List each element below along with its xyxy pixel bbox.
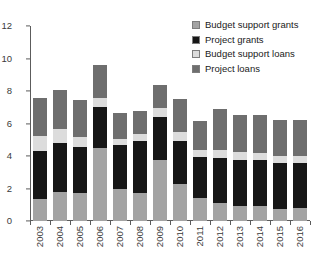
legend: Budget support grantsProject grantsBudge… (192, 19, 298, 75)
legend-item-label: Project grants (205, 35, 264, 45)
bar-segment[interactable] (113, 139, 127, 146)
bar-segment[interactable] (153, 85, 167, 108)
y-axis-tick-label: 2 (0, 184, 12, 194)
x-axis-tick-label: 2006 (95, 226, 105, 247)
bar-segment[interactable] (213, 150, 227, 159)
bar-segment[interactable] (33, 98, 47, 136)
x-axis-tick-mark (30, 221, 31, 225)
bar-segment[interactable] (233, 115, 247, 152)
legend-swatch-icon (192, 36, 200, 44)
x-axis-tick-label: 2011 (195, 226, 205, 246)
bar-segment[interactable] (73, 137, 87, 148)
x-axis-tick-label: 2015 (275, 226, 285, 247)
y-axis-tick-label: 8 (0, 86, 12, 96)
bar-segment[interactable] (293, 163, 307, 209)
bar-segment[interactable] (213, 203, 227, 221)
bar-segment[interactable] (113, 189, 127, 222)
bar-segment[interactable] (273, 156, 287, 163)
bar-segment[interactable] (33, 151, 47, 199)
bar-segment[interactable] (253, 206, 267, 221)
bar-segment[interactable] (173, 132, 187, 141)
x-axis-tick-mark (290, 221, 291, 225)
y-axis-tick-label: 12 (0, 21, 12, 31)
bar-segment[interactable] (113, 145, 127, 188)
bar-segment[interactable] (93, 107, 107, 148)
bar-segment[interactable] (33, 199, 47, 221)
bar-segment[interactable] (293, 120, 307, 156)
bar-segment[interactable] (213, 109, 227, 150)
bar-segment[interactable] (173, 99, 187, 132)
x-axis-tick-label: 2014 (255, 226, 265, 247)
x-axis-tick-label: 2016 (295, 226, 305, 247)
legend-swatch-icon (192, 65, 200, 73)
bar-segment[interactable] (253, 115, 267, 152)
bar-segment[interactable] (93, 65, 107, 98)
bar-segment[interactable] (133, 134, 147, 141)
x-axis-tick-mark (50, 221, 51, 225)
bar-segment[interactable] (93, 148, 107, 221)
bar-segment[interactable] (193, 150, 207, 157)
y-axis-tick-label: 10 (0, 54, 12, 64)
bar-segment[interactable] (293, 208, 307, 221)
bar-segment[interactable] (193, 157, 207, 198)
x-axis-tick-mark (170, 221, 171, 225)
bar-segment[interactable] (73, 100, 87, 137)
bar-segment[interactable] (253, 153, 267, 160)
legend-swatch-icon (192, 21, 200, 29)
x-axis-tick-mark (150, 221, 151, 225)
bar-segment[interactable] (173, 184, 187, 221)
legend-item-label: Project loans (205, 64, 260, 74)
x-axis-tick-mark (110, 221, 111, 225)
x-axis-tick-mark (210, 221, 211, 225)
bar-segment[interactable] (273, 209, 287, 221)
x-axis-tick-mark (190, 221, 191, 225)
bar-segment[interactable] (273, 163, 287, 209)
bar-segment[interactable] (173, 141, 187, 183)
bar-segment[interactable] (93, 98, 107, 108)
y-axis-tick-label: 6 (0, 119, 12, 129)
bar-segment[interactable] (153, 108, 167, 117)
bar-segment[interactable] (273, 120, 287, 156)
legend-item-label: Budget support grants (205, 20, 298, 30)
bar-segment[interactable] (153, 160, 167, 221)
x-axis-tick-mark (130, 221, 131, 225)
bar-segment[interactable] (73, 193, 87, 221)
bar-segment[interactable] (293, 156, 307, 163)
y-axis-tick-label: 0 (0, 216, 12, 226)
bar-segment[interactable] (193, 198, 207, 221)
x-axis-tick-label: 2004 (55, 226, 65, 247)
bar-segment[interactable] (133, 141, 147, 192)
bar-segment[interactable] (253, 160, 267, 206)
x-axis-tick-mark (90, 221, 91, 225)
legend-item[interactable]: Project loans (192, 63, 298, 75)
x-axis-tick-mark (270, 221, 271, 225)
bar-segment[interactable] (33, 136, 47, 151)
x-axis-tick-label: 2009 (155, 226, 165, 247)
bar-segment[interactable] (233, 160, 247, 206)
y-axis-tick-label: 4 (0, 151, 12, 161)
bar-segment[interactable] (193, 121, 207, 149)
legend-item[interactable]: Budget support grants (192, 19, 298, 31)
bar-segment[interactable] (133, 193, 147, 221)
bar-segment[interactable] (213, 158, 227, 203)
x-axis-tick-mark (250, 221, 251, 225)
legend-item[interactable]: Project grants (192, 34, 298, 46)
bar-segment[interactable] (233, 206, 247, 221)
bar-segment[interactable] (73, 147, 87, 193)
x-axis-tick-label: 2005 (75, 226, 85, 247)
x-axis-tick-label: 2007 (115, 226, 125, 247)
bar-segment[interactable] (233, 152, 247, 160)
x-axis-tick-label: 2003 (35, 226, 45, 247)
bar-segment[interactable] (133, 111, 147, 135)
bar-segment[interactable] (113, 113, 127, 139)
bar-segment[interactable] (53, 192, 67, 221)
legend-item[interactable]: Budget support loans (192, 48, 298, 60)
bar-chart: 024681012 200320042005200620072008200920… (0, 0, 324, 263)
bar-segment[interactable] (53, 90, 67, 129)
bar-segment[interactable] (53, 129, 67, 143)
legend-swatch-icon (192, 50, 200, 58)
bar-segment[interactable] (153, 117, 167, 160)
x-axis-tick-label: 2013 (235, 226, 245, 247)
bar-segment[interactable] (53, 143, 67, 192)
x-axis-tick-label: 2010 (175, 226, 185, 247)
